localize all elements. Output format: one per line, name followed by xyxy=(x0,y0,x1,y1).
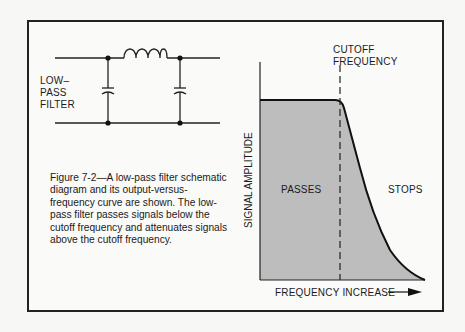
schematic-diagram xyxy=(55,49,220,123)
filter-label: LOW– PASS FILTER xyxy=(40,75,75,111)
label-line: FILTER xyxy=(40,99,75,111)
junction-dots xyxy=(105,55,182,125)
y-axis-label: SIGNAL AMPLITUDE xyxy=(243,132,254,228)
label-line: LOW– xyxy=(40,75,75,87)
figure-caption: Figure 7-2—A low-pass filter schematic d… xyxy=(50,172,230,246)
x-axis-label: FREQUENCY INCREASE xyxy=(275,287,395,299)
cutoff-label: CUTOFFFREQUENCY xyxy=(333,44,413,68)
stops-label: STOPS xyxy=(388,184,423,196)
label-line: PASS xyxy=(40,87,75,99)
passes-label: PASSES xyxy=(281,184,321,196)
arrow-head-icon xyxy=(408,288,422,296)
